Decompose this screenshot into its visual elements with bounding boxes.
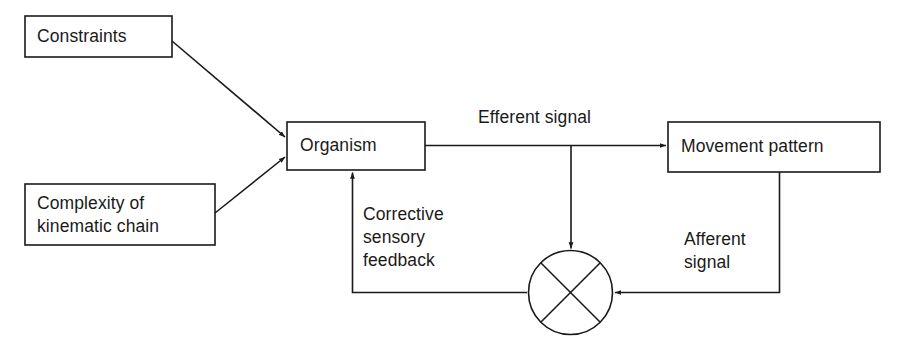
- edge-label-corrective-sensory-feedback: Corrective sensory feedback: [363, 203, 444, 272]
- node-label-complexity: Complexity of kinematic chain: [37, 192, 159, 238]
- node-label-constraints: Constraints: [37, 25, 127, 48]
- node-label-movement-pattern: Movement pattern: [681, 135, 824, 158]
- node-label-organism: Organism: [300, 134, 377, 157]
- diagram-canvas: Constraints Complexity of kinematic chai…: [0, 0, 898, 355]
- edge-label-afferent-signal: Afferent signal: [684, 228, 746, 274]
- diagram-svg: [0, 0, 898, 355]
- edge-constraints-to-organism: [172, 41, 285, 137]
- edge-complexity-to-organism: [215, 157, 285, 213]
- edge-label-efferent-signal: Efferent signal: [478, 106, 591, 129]
